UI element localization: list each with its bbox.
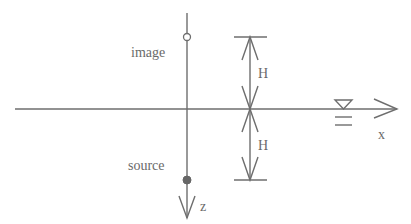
x-axis-label: x [378, 127, 385, 142]
x-axis [15, 99, 397, 118]
height-upper-label: H [258, 66, 268, 81]
image-label: image [131, 45, 165, 60]
z-axis [179, 13, 195, 218]
z-axis-label: z [200, 199, 206, 214]
image-point-icon [184, 34, 191, 41]
source-label: source [128, 158, 165, 173]
height-lower-label: H [258, 138, 268, 153]
image-source-diagram: image source z x H H [0, 0, 411, 224]
source-point-icon [183, 176, 191, 184]
water-surface-icon [335, 100, 352, 125]
